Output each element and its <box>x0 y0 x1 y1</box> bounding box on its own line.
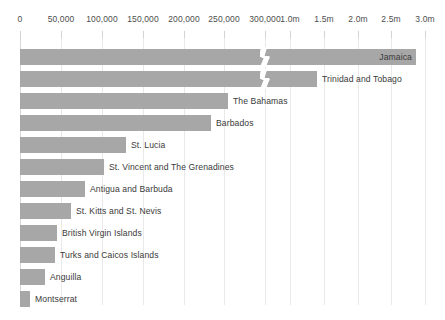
bar[interactable] <box>20 203 71 219</box>
x-axis-tick-label: 0 <box>18 14 23 24</box>
bar-label: Barbados <box>216 115 254 131</box>
bar-row[interactable]: The Bahamas <box>0 90 445 112</box>
bar-row[interactable]: Trinidad and Tobago <box>0 68 445 90</box>
bar-row[interactable]: Turks and Caicos Islands <box>0 244 445 266</box>
x-axis-tick-mark <box>425 31 426 38</box>
bar[interactable] <box>20 269 45 285</box>
x-axis-tick-mark <box>391 31 392 38</box>
bar-row[interactable]: Barbados <box>0 112 445 134</box>
x-axis-tick-mark <box>290 31 291 38</box>
bar-label: Montserrat <box>35 291 77 307</box>
x-axis-tick-mark <box>358 31 359 38</box>
bar[interactable] <box>20 291 30 307</box>
bar-row[interactable]: St. Lucia <box>0 134 445 156</box>
x-axis-tick-label: 50,000 <box>48 14 75 24</box>
x-axis-tick-mark <box>20 31 21 38</box>
axis-break-mark <box>260 47 272 67</box>
x-axis-tick-label: 2.0m <box>348 14 367 24</box>
bar-row[interactable]: St. Vincent and The Grenadines <box>0 156 445 178</box>
bar-label: Antigua and Barbuda <box>90 181 173 197</box>
x-axis-tick-label: 100,000 <box>86 14 117 24</box>
x-axis-tick-label: 1.0m <box>280 14 299 24</box>
bar-row[interactable]: St. Kitts and St. Nevis <box>0 200 445 222</box>
x-axis-tick-label: 200,000 <box>168 14 199 24</box>
x-axis-tick-mark <box>184 31 185 38</box>
bar-row[interactable]: British Virgin Islands <box>0 222 445 244</box>
bar-label: Trinidad and Tobago <box>322 71 402 87</box>
x-axis-tick-label: 250,000 <box>208 14 239 24</box>
bar[interactable] <box>20 93 228 109</box>
bar-row[interactable]: Anguilla <box>0 266 445 288</box>
bar[interactable] <box>20 49 416 65</box>
bar-chart: 050,000100,000150,000200,000250,000300,0… <box>0 0 445 320</box>
x-axis-tick-mark <box>102 31 103 38</box>
bar[interactable] <box>20 181 85 197</box>
bar-row[interactable]: Jamaica <box>0 46 445 68</box>
x-axis-tick-mark <box>143 31 144 38</box>
x-axis-tick-mark <box>224 31 225 38</box>
bar[interactable] <box>20 225 57 241</box>
bar-label: Jamaica <box>379 49 412 65</box>
bar-label: The Bahamas <box>233 93 288 109</box>
x-axis-tick-mark <box>61 31 62 38</box>
x-axis-tick-label: 2.5m <box>381 14 400 24</box>
x-axis-tick-mark <box>265 31 266 38</box>
bar[interactable] <box>20 71 317 87</box>
axis-break-mark <box>260 69 272 89</box>
x-axis-tick-label: 3.0m <box>415 14 434 24</box>
bar-label: Anguilla <box>50 269 81 285</box>
x-axis-tick-label: 300,000 <box>249 14 280 24</box>
bar[interactable] <box>20 137 126 153</box>
bar-row[interactable]: Montserrat <box>0 288 445 310</box>
bar-row[interactable]: Antigua and Barbuda <box>0 178 445 200</box>
x-axis-tick-mark <box>324 31 325 38</box>
bar-label: St. Kitts and St. Nevis <box>76 203 161 219</box>
bar[interactable] <box>20 115 211 131</box>
x-axis-tick-label: 1.5m <box>314 14 333 24</box>
bar-label: Turks and Caicos Islands <box>60 247 159 263</box>
bar-label: British Virgin Islands <box>62 225 142 241</box>
bar-label: St. Lucia <box>131 137 165 153</box>
bar[interactable] <box>20 159 104 175</box>
bar-label: St. Vincent and The Grenadines <box>109 159 234 175</box>
bar[interactable] <box>20 247 55 263</box>
x-axis-tick-label: 150,000 <box>127 14 158 24</box>
x-axis: 050,000100,000150,000200,000250,000300,0… <box>0 0 445 38</box>
